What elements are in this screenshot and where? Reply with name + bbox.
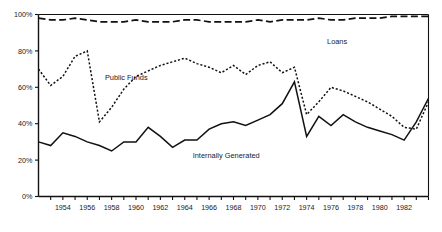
y-tick-label: 60%: [18, 83, 33, 92]
series-label-loans: Loans: [327, 37, 347, 46]
series-annotation-labels: LoansPublic FundsInternally Generated: [105, 37, 348, 161]
y-tick-label: 80%: [18, 47, 33, 56]
x-tick-label: 1974: [299, 203, 315, 212]
x-tick-label: 1954: [55, 203, 71, 212]
x-tick-label: 1964: [177, 203, 193, 212]
x-tick-label: 1958: [104, 203, 120, 212]
x-tick-label: 1976: [323, 203, 339, 212]
x-tick-label: 1982: [396, 203, 412, 212]
x-axis-labels: 1954195619581960196219641966196819701972…: [55, 203, 412, 212]
y-tick-label: 40%: [18, 119, 33, 128]
line-chart: 0%20%40%60%80%100% 195419561958196019621…: [0, 0, 442, 232]
x-tick-label: 1962: [152, 203, 168, 212]
x-tick-label: 1968: [226, 203, 242, 212]
y-tick-label: 0%: [22, 192, 33, 201]
y-axis-labels: 0%20%40%60%80%100%: [14, 10, 33, 201]
series-label-public-funds: Public Funds: [105, 73, 148, 82]
x-tick-label: 1978: [347, 203, 363, 212]
y-tick-label: 100%: [14, 10, 33, 19]
x-tick-label: 1972: [274, 203, 290, 212]
x-tick-label: 1956: [79, 203, 95, 212]
series-label-internally-generated: Internally Generated: [193, 151, 260, 160]
plot-frame: [39, 15, 429, 197]
data-series-group: [39, 16, 429, 151]
series-line-loans: [39, 16, 429, 21]
x-tick-label: 1970: [250, 203, 266, 212]
series-line-public-funds: [39, 51, 429, 129]
chart-container: 0%20%40%60%80%100% 195419561958196019621…: [0, 0, 442, 232]
x-tick-label: 1960: [128, 203, 144, 212]
series-line-internally-generated: [39, 82, 429, 151]
x-tick-label: 1980: [372, 203, 388, 212]
y-tick-label: 20%: [18, 156, 33, 165]
x-tick-label: 1966: [201, 203, 217, 212]
